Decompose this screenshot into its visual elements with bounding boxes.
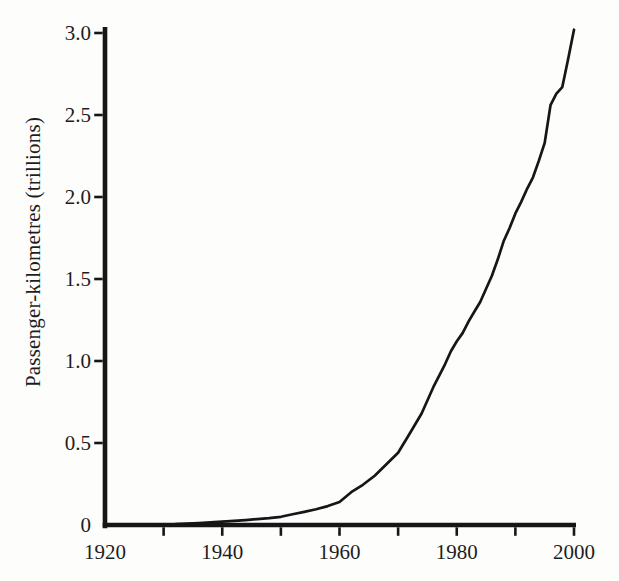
x-tick-label: 1980 <box>436 540 478 564</box>
y-tick-label: 1.5 <box>65 267 91 291</box>
x-tick-label: 1940 <box>201 540 243 564</box>
y-tick-label: 0 <box>81 513 92 537</box>
y-tick-label: 1.0 <box>65 349 91 373</box>
series-line <box>158 30 574 525</box>
y-tick-label: 2.0 <box>65 185 91 209</box>
y-tick-label: 0.5 <box>65 431 91 455</box>
y-tick-label: 2.5 <box>65 103 91 127</box>
x-tick-label: 1960 <box>319 540 361 564</box>
chart-figure: Passenger-kilometres (trillions) 1920194… <box>0 0 619 581</box>
x-tick-label: 1920 <box>84 540 126 564</box>
line-chart: 1920194019601980200000.51.01.52.02.53.0 <box>0 0 619 581</box>
x-tick-label: 2000 <box>553 540 595 564</box>
y-tick-label: 3.0 <box>65 21 91 45</box>
